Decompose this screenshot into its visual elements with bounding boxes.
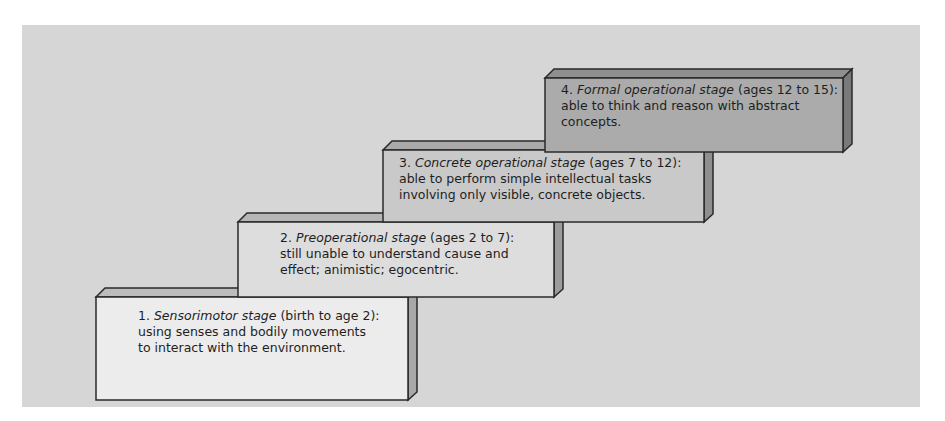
stage-4-text: 4. Formal operational stage (ages 12 to … [561,82,838,130]
stage-1-ages: (birth to age 2): [280,308,379,323]
stage-1-block: 1. Sensorimotor stage (birth to age 2): … [96,288,418,401]
stage-4-block: 4. Formal operational stage (ages 12 to … [545,69,853,153]
stage-4-name: Formal operational stage [577,82,734,97]
stage-3-block: 3. Concrete operational stage (ages 7 to… [383,141,714,223]
stage-2-block: 2. Preoperational stage (ages 2 to 7): s… [238,213,564,298]
stage-2-number: 2. [280,230,292,245]
stage-4-ages: (ages 12 to 15): [738,82,838,97]
stage-4-description-line-2: concepts. [561,114,838,130]
stage-2-name: Preoperational stage [296,230,426,245]
stage-3-description-line-2: involving only visible, concrete objects… [399,187,681,203]
stage-3-text: 3. Concrete operational stage (ages 7 to… [399,155,681,203]
stage-3-number: 3. [399,155,411,170]
stage-2-description-line-2: effect; animistic; egocentric. [280,262,514,278]
stage-3-description-line-1: able to perform simple intellectual task… [399,171,681,187]
stage-1-number: 1. [138,308,150,323]
stage-2-text: 2. Preoperational stage (ages 2 to 7): s… [280,230,514,278]
stage-1-text: 1. Sensorimotor stage (birth to age 2): … [138,308,379,356]
stage-1-name: Sensorimotor stage [154,308,277,323]
stage-4-description-line-1: able to think and reason with abstract [561,98,838,114]
stage-3-name: Concrete operational stage [415,155,585,170]
stage-2-ages: (ages 2 to 7): [430,230,514,245]
stage-1-description-line-1: using senses and bodily movements [138,324,379,340]
stage-4-number: 4. [561,82,573,97]
stage-1-description-line-2: to interact with the environment. [138,340,379,356]
stage-2-description-line-1: still unable to understand cause and [280,246,514,262]
stage-3-ages: (ages 7 to 12): [589,155,681,170]
